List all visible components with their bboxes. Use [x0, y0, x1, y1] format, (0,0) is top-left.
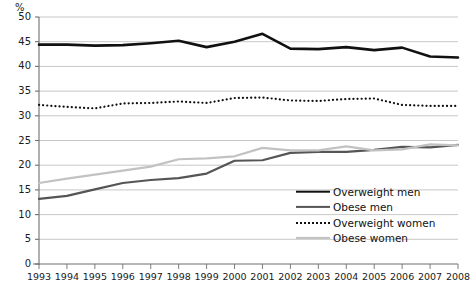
x-axis-tick-label: 2005: [360, 272, 388, 282]
legend-label: Overweight men: [333, 186, 420, 198]
x-axis-tick-label: 1994: [53, 272, 81, 282]
x-axis-ticks: [39, 264, 458, 269]
legend-swatch-icon: [296, 201, 330, 213]
legend-swatch-icon: [296, 186, 330, 198]
legend-swatch-icon: [296, 232, 330, 244]
x-axis-tick-label: 1998: [165, 272, 193, 282]
x-axis-tick-label: 2003: [304, 272, 332, 282]
y-axis-ticks: [35, 17, 39, 264]
x-axis-tick-label: 2001: [248, 272, 276, 282]
y-axis-tick-label: 30: [9, 111, 31, 121]
data-series-layer: [39, 34, 458, 199]
x-axis-tick-label: 1995: [81, 272, 109, 282]
x-axis-tick-label: 2007: [416, 272, 444, 282]
series-line-obese_women: [39, 144, 458, 183]
y-axis-tick-label: 10: [9, 210, 31, 220]
legend-label: Obese women: [333, 232, 408, 244]
x-axis-tick-label: 1999: [193, 272, 221, 282]
y-axis-tick-label: 15: [9, 185, 31, 195]
legend-item-obese_men[interactable]: Obese men: [296, 200, 456, 216]
y-axis-tick-label: 25: [9, 136, 31, 146]
x-axis-tick-label: 2006: [388, 272, 416, 282]
x-axis-tick-label: 2000: [221, 272, 249, 282]
y-axis-tick-label: 45: [9, 37, 31, 47]
legend-item-obese_women[interactable]: Obese women: [296, 231, 456, 247]
legend-label: Obese men: [333, 201, 393, 213]
x-axis-tick-label: 2002: [276, 272, 304, 282]
legend-swatch-icon: [296, 217, 330, 229]
y-axis-tick-label: 50: [9, 12, 31, 22]
y-axis-tick-label: 5: [9, 234, 31, 244]
y-axis-tick-label: 35: [9, 86, 31, 96]
y-axis-tick-label: 0: [9, 259, 31, 269]
x-axis-tick-label: 1997: [137, 272, 165, 282]
x-axis-tick-label: 2008: [444, 272, 472, 282]
series-line-overweight_women: [39, 98, 458, 109]
legend-item-overweight_women[interactable]: Overweight women: [296, 215, 456, 231]
series-line-overweight_men: [39, 34, 458, 58]
y-axis-tick-label: 20: [9, 160, 31, 170]
chart-legend: Overweight menObese menOverweight womenO…: [296, 184, 456, 246]
y-axis-tick-label: 40: [9, 61, 31, 71]
x-axis-tick-label: 1996: [109, 272, 137, 282]
legend-label: Overweight women: [333, 217, 435, 229]
legend-item-overweight_men[interactable]: Overweight men: [296, 184, 456, 200]
x-axis-tick-label: 1993: [25, 272, 53, 282]
x-axis-tick-label: 2004: [332, 272, 360, 282]
